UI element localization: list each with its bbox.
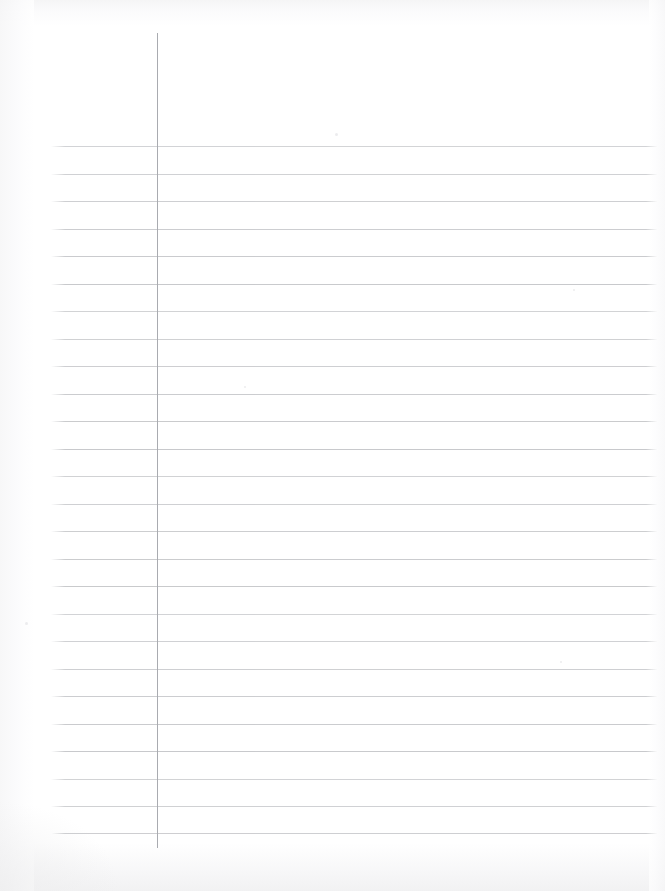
ruled-line [51,256,658,257]
ruled-line [51,339,658,340]
ruled-line [51,366,658,367]
ruled-line [51,229,658,230]
ruled-line [51,586,658,587]
ruled-line [51,641,658,642]
ruled-line [51,806,658,807]
ruled-line [51,476,658,477]
ruled-line [51,284,658,285]
ruled-line [51,696,658,697]
ruled-line [51,669,658,670]
ruled-line [51,174,658,175]
scan-speck [244,386,246,388]
ruled-line [51,394,658,395]
ruled-line [51,751,658,752]
ruled-line [51,311,658,312]
scan-speck [560,661,562,663]
scan-speck [573,289,575,291]
ruled-line [51,614,658,615]
ruled-lines-layer [0,0,665,891]
ruled-line [51,146,658,147]
ruled-line [51,559,658,560]
ruled-line [51,724,658,725]
margin-rule-line [157,33,158,848]
scan-speck [335,133,338,136]
ruled-line [51,449,658,450]
ruled-line [51,504,658,505]
ruled-line [51,833,658,834]
ruled-line [51,779,658,780]
notebook-page [0,0,665,891]
ruled-line [51,421,658,422]
ruled-line [51,531,658,532]
ruled-line [51,201,658,202]
scan-speck [25,622,28,625]
